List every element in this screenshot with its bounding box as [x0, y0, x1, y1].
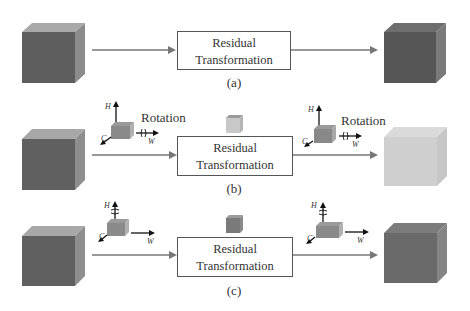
- axis-w-label: W: [357, 236, 364, 245]
- arrow-c-out: [293, 251, 378, 259]
- axis-c-label: C: [307, 234, 312, 243]
- output-cube-c: [384, 223, 447, 283]
- axis-h-label: H: [104, 201, 110, 210]
- arrow-c-in: [92, 251, 177, 259]
- caption-c: (c): [214, 283, 254, 299]
- box-label-line2: Transformation: [178, 258, 292, 275]
- box-label-line1: Residual: [178, 241, 292, 258]
- axis-h-label: H: [311, 201, 317, 210]
- input-cube-c: [22, 226, 85, 286]
- residual-transformation-box-c: Residual Transformation: [177, 237, 293, 277]
- axis-w-label: W: [147, 237, 154, 246]
- axis-c-label: C: [99, 232, 104, 241]
- mini-cube-c: [226, 215, 243, 233]
